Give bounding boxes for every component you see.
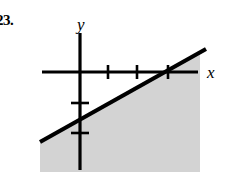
y-axis-label: y: [75, 15, 85, 34]
x-axis-label: x: [206, 63, 215, 82]
graph-plot: x y: [0, 0, 235, 183]
figure-container: 23. x y: [0, 0, 235, 183]
